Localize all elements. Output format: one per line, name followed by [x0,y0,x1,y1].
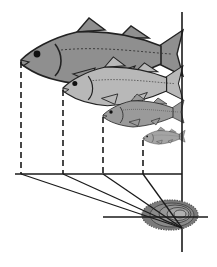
fish-age-1 [143,127,185,144]
fish-scale [142,200,198,230]
fish-growth-diagram [0,0,217,267]
